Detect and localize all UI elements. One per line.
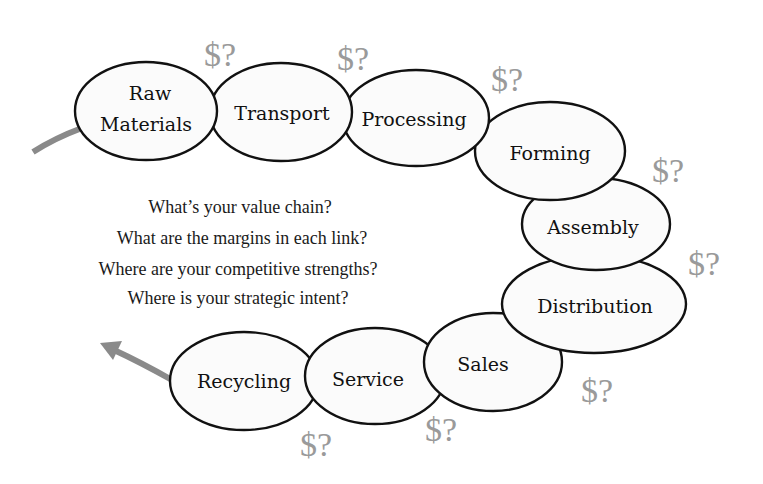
margin-marker: $? [652, 152, 684, 189]
outgoing-arrow [100, 341, 172, 380]
question-line: What’s your value chain? [148, 197, 331, 217]
chain-link-recycling: Recycling [170, 332, 318, 430]
margin-marker: $? [688, 245, 720, 282]
chain-link-transport: Transport [210, 63, 352, 161]
margin-marker: $? [300, 426, 332, 463]
link-label: Service [332, 368, 404, 390]
strategy-questions: What’s your value chain? What are the ma… [99, 197, 378, 308]
margin-marker: $? [337, 40, 369, 77]
question-line: Where is your strategic intent? [128, 288, 349, 308]
question-line: What are the margins in each link? [117, 228, 368, 248]
link-label: Distribution [537, 295, 653, 317]
incoming-arrow-tail [33, 128, 82, 152]
chain-link-forming: Forming [475, 102, 625, 200]
link-label: Sales [457, 353, 508, 375]
chain-link-service: Service [305, 328, 445, 424]
question-line: Where are your competitive strengths? [99, 259, 378, 279]
link-label: Forming [509, 142, 590, 164]
margin-marker: $? [425, 411, 457, 448]
link-label: Materials [100, 113, 192, 135]
chain-link-processing: Processing [343, 70, 489, 166]
link-label: Recycling [197, 370, 291, 392]
chain-link-raw-materials: Raw Materials [75, 62, 217, 160]
link-label: Transport [234, 102, 330, 124]
link-label: Processing [361, 108, 466, 130]
margin-marker: $? [204, 36, 236, 73]
link-label: Assembly [546, 216, 639, 238]
value-chain-diagram: Recycling Service Sales Distribution Ass… [0, 0, 763, 484]
margin-marker: $? [581, 372, 613, 409]
margin-marker: $? [491, 61, 523, 98]
link-label: Raw [129, 82, 172, 104]
